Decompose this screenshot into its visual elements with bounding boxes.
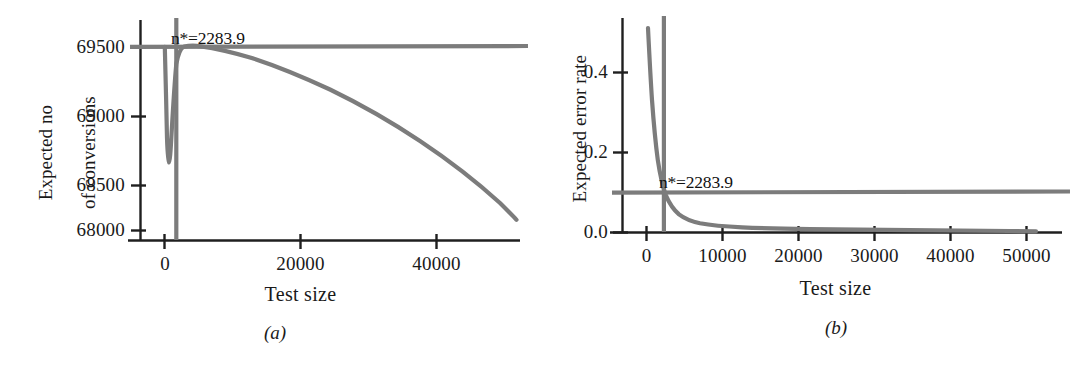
x-axis-label: Test size [785, 277, 886, 300]
panel-b-plot [540, 0, 1081, 368]
x-tick-label-1: 20000 [250, 253, 351, 275]
subfigure-caption-a: (a) [255, 322, 295, 344]
y-tick-marks [131, 48, 146, 231]
y-tick-label-2: 68500 [47, 174, 125, 196]
y-tick-label-0: 69500 [47, 36, 125, 58]
y-tick-label-1: 0.2 [560, 141, 608, 163]
optimal-test-size-annotation: n*=2283.9 [659, 172, 733, 193]
expected-error-rate-curve [648, 28, 1036, 231]
subfigure-caption-b: (b) [816, 317, 856, 339]
y-tick-label-1: 69000 [47, 105, 125, 127]
optimal-test-size-annotation: n*=2283.9 [171, 28, 245, 49]
figure-root: Expected no of conversions 69500 69000 6… [0, 0, 1081, 368]
y-tick-marks [613, 73, 628, 233]
panel-b: Expected error rate 0.4 0.2 0.0 0 10000 … [540, 0, 1081, 368]
x-tick-label-0: 0 [621, 245, 672, 267]
x-tick-label-5: 50000 [976, 245, 1077, 267]
x-tick-label-2: 40000 [386, 253, 487, 275]
expected-conversions-curve [165, 46, 517, 220]
x-tick-label-0: 0 [130, 253, 200, 275]
panel-a: Expected no of conversions 69500 69000 6… [0, 0, 540, 368]
y-axis-label: Expected error rate [569, 19, 590, 239]
y-tick-label-2: 0.0 [560, 221, 608, 243]
x-axis-label: Test size [250, 283, 351, 306]
y-tick-label-0: 0.4 [560, 61, 608, 83]
y-tick-label-3: 68000 [47, 219, 125, 241]
